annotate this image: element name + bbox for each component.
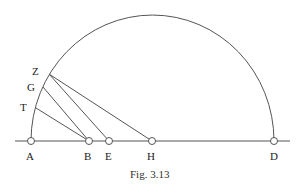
point-label-t: T (20, 102, 27, 113)
point-label-a: A (26, 151, 34, 162)
segment-tb (36, 108, 89, 141)
semicircle-arc (31, 15, 274, 141)
point-label-z: Z (32, 66, 39, 77)
point-label-e: E (105, 151, 112, 162)
figure-caption: Fig. 3.13 (130, 169, 169, 180)
point-label-d: D (270, 151, 278, 162)
point-e-marker (106, 138, 113, 145)
point-label-g: G (27, 82, 35, 93)
point-a-marker (28, 138, 35, 145)
geometry-figure (0, 0, 304, 195)
point-d-marker (271, 138, 278, 145)
point-label-h: H (147, 151, 155, 162)
point-h-marker (149, 138, 156, 145)
point-label-b: B (84, 151, 91, 162)
point-b-marker (86, 138, 93, 145)
